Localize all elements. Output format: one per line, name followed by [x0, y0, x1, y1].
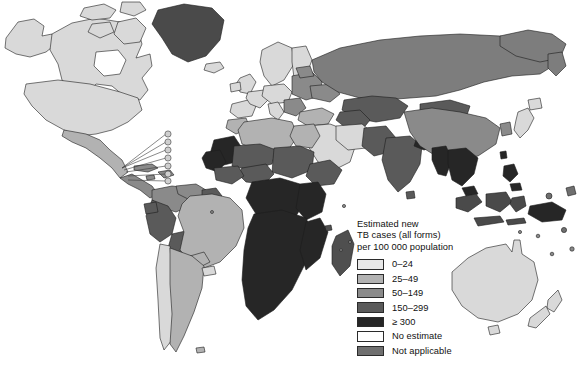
legend-label-25-49: 25–49: [392, 274, 418, 284]
region-sulawesi: [510, 196, 526, 212]
legend-label-150-299: 150–299: [392, 303, 429, 313]
region-papua-new-guinea: [528, 202, 566, 222]
legend-swatch-not-applicable: [357, 346, 384, 357]
region-pacific-island-dot: [518, 230, 521, 233]
legend-swatch-50-149: [357, 288, 384, 299]
region-ireland: [230, 82, 241, 92]
region-pacific-island-dot: [349, 241, 352, 244]
caribbean-callout-circle: [165, 131, 171, 137]
region-canadian-arctic-islands: [80, 4, 116, 20]
legend-swatch-0-24: [357, 259, 384, 270]
region-uruguay: [202, 266, 216, 276]
region-lesser-sunda-islands: [506, 218, 526, 225]
legend-item-not-applicable: Not applicable: [357, 344, 507, 358]
region-mexico: [62, 130, 128, 178]
region-turkey: [298, 108, 334, 126]
region-alaska: [5, 19, 56, 57]
region-kamchatka: [548, 52, 566, 76]
region-new-zealand-south: [528, 306, 550, 328]
legend-label-300-plus: ≥ 300: [392, 317, 415, 327]
legend-item-25-49: 25–49: [357, 272, 507, 286]
caribbean-callout-circle: [165, 163, 171, 169]
region-southern-africa: [242, 210, 314, 320]
region-argentina: [170, 248, 204, 352]
region-philippines-south: [510, 183, 522, 191]
legend-swatch-150-299: [357, 302, 384, 313]
caribbean-callout-circle: [165, 171, 171, 177]
caribbean-callout-circle: [165, 139, 171, 145]
region-pacific-island-dot: [342, 204, 345, 207]
legend-swatch-300-plus: [357, 317, 384, 328]
region-comoros: [325, 225, 332, 231]
region-falkland-islands: [196, 347, 205, 353]
region-hokkaido: [528, 98, 542, 110]
legend-label-not-applicable: Not applicable: [392, 346, 452, 356]
region-philippines: [503, 164, 518, 182]
region-sumatra: [456, 194, 482, 212]
region-korea: [500, 122, 512, 136]
region-pacific-island-dot: [340, 249, 343, 252]
region-iceland: [204, 62, 224, 73]
region-pacific-island-dot: [550, 252, 554, 256]
region-pacific-island: [566, 186, 576, 196]
caribbean-callout-circle: [165, 155, 171, 161]
map-legend: Estimated new TB cases (all forms) per 1…: [357, 219, 507, 358]
legend-label-no-estimate: No estimate: [392, 331, 442, 341]
region-new-zealand-north: [547, 290, 562, 312]
caribbean-callout-circle: [165, 178, 171, 184]
region-italy: [268, 102, 284, 120]
legend-title: Estimated new TB cases (all forms) per 1…: [357, 219, 507, 253]
region-japan: [514, 108, 534, 138]
region-taiwan: [500, 151, 507, 159]
legend-label-50-149: 50–149: [392, 288, 423, 298]
region-pacific-island-dot: [561, 227, 566, 232]
region-pacific-island-dot: [570, 247, 574, 251]
legend-item-0-24: 0–24: [357, 257, 507, 271]
region-jamaica: [146, 175, 155, 180]
region-sri-lanka: [406, 191, 415, 199]
region-scandinavia: [260, 42, 294, 86]
region-pacific-island-dot: [536, 234, 540, 238]
legend-item-no-estimate: No estimate: [357, 329, 507, 343]
caribbean-callout-circle: [165, 147, 171, 153]
region-east-africa: [296, 182, 326, 220]
region-borneo: [486, 192, 512, 212]
region-pacific-island-dot: [546, 193, 552, 199]
region-madagascar: [332, 230, 354, 276]
region-pacific-island-dot: [211, 211, 214, 214]
legend-item-300-plus: ≥ 300: [357, 315, 507, 329]
legend-swatch-no-estimate: [357, 331, 384, 342]
legend-swatch-25-49: [357, 274, 384, 285]
region-ellesmere-island: [120, 2, 146, 16]
legend-item-50-149: 50–149: [357, 286, 507, 300]
region-guinea-coast: [214, 166, 244, 184]
legend-label-0-24: 0–24: [392, 259, 413, 269]
region-ecuador: [144, 202, 158, 214]
legend-item-150-299: 150–299: [357, 300, 507, 314]
tb-incidence-world-map-figure: Estimated new TB cases (all forms) per 1…: [0, 0, 579, 365]
region-greenland: [152, 4, 224, 62]
